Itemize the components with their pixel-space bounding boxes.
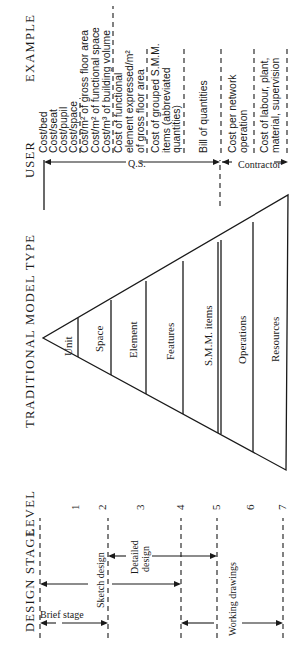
level-5: 5 xyxy=(210,504,222,510)
user-contractor: Contractor xyxy=(238,159,281,170)
model-triangle: Unit Space Element Features S.M.M. items… xyxy=(43,195,288,470)
example-space-3: Cost/m³ of building volume xyxy=(101,30,112,153)
arrow-head-down xyxy=(281,159,288,165)
arrow-head-up xyxy=(222,159,229,165)
model-features: Features xyxy=(164,323,176,360)
arrow-head-down xyxy=(101,620,108,626)
arrow-head-up xyxy=(40,581,47,587)
arrow-head-down xyxy=(210,553,217,559)
arrow-head-up xyxy=(40,620,47,626)
stage-working: Working drawings xyxy=(181,562,283,636)
header-user: USER xyxy=(23,141,37,178)
header-example: EXAMPLE xyxy=(23,14,37,82)
arrow-head-up xyxy=(181,620,188,626)
example-smm-1: Bill of quantities xyxy=(198,80,209,153)
example-features-3: quantities) xyxy=(171,105,182,153)
level-7: 7 xyxy=(276,504,288,510)
example-resources-2: material, supervision xyxy=(270,57,281,153)
level-3: 3 xyxy=(134,504,146,510)
design-stage-guides xyxy=(40,518,283,638)
example-operations-2: operation xyxy=(238,109,249,153)
label-sketch-design: Sketch design xyxy=(95,552,106,608)
model-element: Element xyxy=(127,321,139,358)
header-level: LEVEL xyxy=(23,490,37,536)
level-4: 4 xyxy=(174,504,186,510)
example-space-2: Cost/m² of functional space xyxy=(90,27,101,153)
arrow-head-down xyxy=(213,159,220,165)
arrow-head-down xyxy=(174,581,181,587)
stage-sketch: Sketch design xyxy=(40,552,181,608)
example-features-1: Cost of grouped S.M.M. xyxy=(150,43,161,153)
example-operations-1: Cost per network xyxy=(227,74,238,153)
label-working-drawings: Working drawings xyxy=(227,562,238,636)
model-space: Space xyxy=(93,326,105,352)
example-space-1: Cost/m² of gross floor area xyxy=(79,30,90,153)
example-element-2: element expressed/m² xyxy=(124,50,135,153)
level-1: 1 xyxy=(69,505,81,511)
user-column: Q.S. Contractor xyxy=(44,158,288,210)
example-element-1: Cost of functional xyxy=(113,73,124,153)
header-model-type: TRADITIONAL MODEL TYPE xyxy=(23,234,37,428)
arrow-head-down xyxy=(276,620,283,626)
design-stage-model-diagram: DESIGN STAGE LEVEL TRADITIONAL MODEL TYP… xyxy=(0,0,306,646)
model-unit: Unit xyxy=(62,336,74,356)
arrow-head-up xyxy=(108,553,115,559)
model-operations: Operations xyxy=(236,316,248,364)
label-detailed: Detailed xyxy=(129,540,140,574)
model-resources: Resources xyxy=(269,317,281,362)
stage-brief: Brief stage xyxy=(40,609,108,626)
level-numbers: 1 2 3 4 5 6 7 xyxy=(69,504,288,510)
model-smm-items: S.M.M. items xyxy=(202,305,214,366)
diagram-canvas: DESIGN STAGE LEVEL TRADITIONAL MODEL TYP… xyxy=(0,0,306,646)
level-2: 2 xyxy=(96,505,108,511)
label-design: design xyxy=(140,546,151,572)
arrow-head-up xyxy=(44,159,51,165)
level-6: 6 xyxy=(244,504,256,510)
example-resources-1: Cost of labour, plant, xyxy=(259,58,270,153)
stage-detailed: Detailed design xyxy=(108,540,217,574)
header-design-stage: DESIGN STAGE xyxy=(23,528,37,632)
example-element-3: of gross floor area xyxy=(135,69,146,153)
example-unit-4: Cost/space xyxy=(68,101,79,153)
user-qs: Q.S. xyxy=(128,158,146,169)
label-brief-stage: Brief stage xyxy=(40,609,84,620)
example-column: Cost/bed Cost/seat Cost/pupil Cost/space… xyxy=(38,6,287,153)
